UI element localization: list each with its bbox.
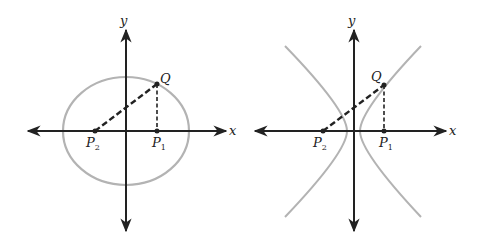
label-p2: P2 (312, 135, 327, 152)
point-p1 (155, 129, 160, 134)
y-axis-label: y (119, 13, 128, 28)
hyperbola-figure: x y Q P1 P2 (255, 13, 457, 231)
point-q (382, 83, 387, 88)
x-axis-label: x (449, 123, 457, 138)
label-p1: P1 (378, 135, 393, 152)
diagram-canvas: x y Q P1 P2 x y Q P1 P2 (0, 0, 481, 248)
point-q (155, 82, 160, 87)
y-axis-label: y (347, 13, 356, 28)
label-q: Q (371, 69, 382, 84)
ellipse-figure: x y Q P1 P2 (28, 13, 237, 231)
label-p1: P1 (151, 135, 166, 152)
label-q: Q (160, 71, 171, 86)
label-p2: P2 (85, 135, 100, 152)
x-axis-label: x (229, 123, 237, 138)
point-p1 (382, 129, 387, 134)
point-p2 (321, 129, 326, 134)
point-p2 (93, 129, 98, 134)
